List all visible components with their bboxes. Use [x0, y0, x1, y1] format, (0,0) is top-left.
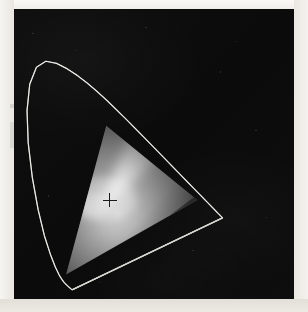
- page-bottom-margin: [0, 299, 308, 312]
- page-left-margin: [0, 0, 14, 312]
- page-right-margin: [294, 0, 308, 312]
- chromaticity-plot-panel: [14, 9, 294, 299]
- page-top-margin: [0, 0, 308, 9]
- rgb-gamut-triangle: [66, 113, 197, 275]
- figure-root: CIE 1931 xy chromaticity diagram (graysc…: [0, 0, 308, 312]
- scan-speckle: [32, 27, 267, 283]
- chromaticity-diagram-svg: [14, 9, 294, 299]
